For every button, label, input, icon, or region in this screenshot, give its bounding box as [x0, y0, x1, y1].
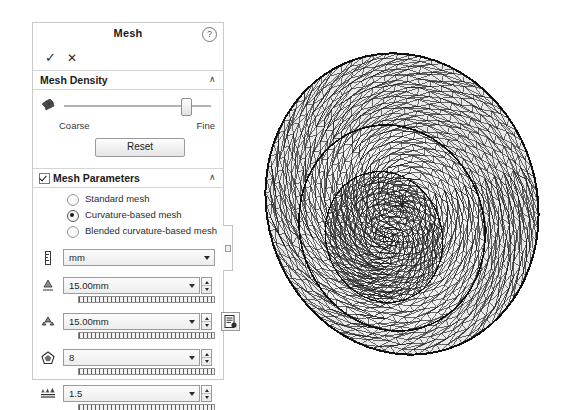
accept-button[interactable]: ✓ — [41, 49, 59, 67]
section-title-mesh-density: Mesh Density — [40, 74, 108, 86]
chevron-up-icon[interactable]: ∧ — [209, 74, 216, 84]
panel-title-bar: Mesh ? — [33, 23, 223, 48]
stepper-up[interactable] — [202, 350, 211, 358]
radio-button-selected[interactable] — [67, 210, 79, 222]
field-row-circle-element-count: 8 — [33, 349, 223, 368]
chevron-down-icon[interactable] — [189, 284, 195, 288]
stepper-down[interactable] — [202, 358, 211, 365]
mesh-options-icon — [222, 313, 239, 330]
stepper-up[interactable] — [202, 314, 211, 322]
chevron-down-icon[interactable] — [189, 392, 195, 396]
radio-label: Blended curvature-based mesh — [85, 224, 223, 238]
chevron-down-icon[interactable] — [189, 356, 195, 360]
mesh-density-icon — [40, 98, 56, 112]
radio-curvature-based-mesh[interactable]: Curvature-based mesh — [33, 208, 223, 224]
reset-button[interactable]: Reset — [95, 138, 185, 157]
max-element-size-tickstrip[interactable] — [78, 296, 215, 303]
field-row-min-element-size: 15.00mm — [33, 313, 223, 332]
field-row-element-growth-ratio: 1.5 — [33, 385, 223, 404]
graphics-viewport[interactable] — [252, 32, 552, 380]
mesh-density-body: Coarse Fine Reset — [33, 90, 223, 168]
chevron-down-icon[interactable] — [189, 320, 195, 324]
circle-element-count-stepper[interactable] — [201, 349, 212, 366]
element-growth-ratio-tickstrip[interactable] — [78, 404, 215, 410]
element-growth-ratio-stepper[interactable] — [201, 385, 212, 402]
stepper-down[interactable] — [202, 394, 211, 401]
mesh-property-panel: Mesh ? ✓ ✕ Mesh Density ∧ Coarse Fine Re… — [32, 22, 224, 380]
slider-max-label: Fine — [197, 120, 215, 131]
pentagon-icon — [40, 350, 56, 366]
units-dropdown[interactable]: mm — [63, 249, 215, 266]
radio-standard-mesh[interactable]: Standard mesh — [33, 192, 223, 208]
stepper-up[interactable] — [202, 386, 211, 394]
cancel-button[interactable]: ✕ — [63, 49, 81, 67]
page-title: Mesh — [33, 27, 223, 39]
element-growth-ratio-input[interactable]: 1.5 — [63, 385, 200, 402]
element-growth-ratio-value: 1.5 — [69, 388, 82, 399]
max-element-icon — [40, 278, 56, 294]
circle-element-count-tickstrip[interactable] — [78, 368, 215, 375]
min-element-size-input[interactable]: 15.00mm — [63, 313, 200, 330]
help-circle-icon[interactable]: ? — [202, 27, 217, 42]
meshed-dome-model — [252, 32, 552, 380]
ruler-icon — [40, 250, 56, 266]
chevron-up-icon[interactable]: ∧ — [209, 172, 216, 182]
slider-handle[interactable] — [181, 98, 192, 116]
slider-min-label: Coarse — [59, 120, 90, 131]
circle-element-count-input[interactable]: 8 — [63, 349, 200, 366]
section-header-mesh-parameters[interactable]: Mesh Parameters ∧ — [33, 168, 223, 188]
radio-label: Standard mesh — [85, 192, 223, 206]
field-row-max-element-size: 15.00mm — [33, 277, 223, 296]
min-element-icon — [40, 314, 56, 330]
max-element-size-stepper[interactable] — [201, 277, 212, 294]
panel-edge-tab-icon[interactable] — [223, 225, 233, 271]
stepper-down[interactable] — [202, 322, 211, 329]
mesh-parameters-checkbox[interactable] — [39, 173, 50, 184]
growth-ratio-icon — [40, 386, 56, 402]
radio-button[interactable] — [67, 194, 79, 206]
stepper-down[interactable] — [202, 286, 211, 293]
radio-button[interactable] — [67, 226, 79, 238]
radio-blended-curvature-based-mesh[interactable]: Blended curvature-based mesh — [33, 224, 223, 240]
section-header-mesh-density[interactable]: Mesh Density ∧ — [33, 71, 223, 90]
mesh-density-slider[interactable] — [64, 98, 211, 114]
stepper-up[interactable] — [202, 278, 211, 286]
units-value: mm — [69, 252, 85, 263]
chevron-down-icon[interactable] — [204, 256, 210, 260]
mesh-options-button[interactable] — [221, 312, 240, 331]
circle-element-count-value: 8 — [69, 352, 74, 363]
min-element-size-stepper[interactable] — [201, 313, 212, 330]
max-element-size-value: 15.00mm — [69, 280, 109, 291]
min-element-size-tickstrip[interactable] — [78, 332, 215, 339]
panel-action-bar: ✓ ✕ — [33, 48, 223, 71]
mesh-parameters-body: Standard mesh Curvature-based mesh Blend… — [33, 188, 223, 404]
field-row-units: mm — [33, 249, 223, 268]
max-element-size-input[interactable]: 15.00mm — [63, 277, 200, 294]
section-title-mesh-parameters: Mesh Parameters — [53, 172, 140, 184]
min-element-size-value: 15.00mm — [69, 316, 109, 327]
radio-label: Curvature-based mesh — [85, 208, 223, 222]
